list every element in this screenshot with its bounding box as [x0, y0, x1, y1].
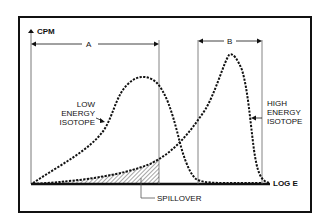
low-energy-label: LOW ENERGY ISOTOPE [50, 100, 95, 127]
high-energy-label: HIGH ENERGY ISOTOPE [267, 99, 302, 126]
window-b-label: B [227, 37, 232, 46]
spectrum-diagram: CPM A B LOW ENERGY ISOTOPE HIGH ENERGY I… [0, 0, 328, 221]
y-axis-label: CPM [37, 27, 55, 36]
window-a-label: A [86, 40, 91, 49]
x-axis-label: LOG E [273, 179, 298, 188]
y-axis-arrow-icon [28, 29, 34, 33]
spillover-label: SPILLOVER [157, 194, 201, 203]
